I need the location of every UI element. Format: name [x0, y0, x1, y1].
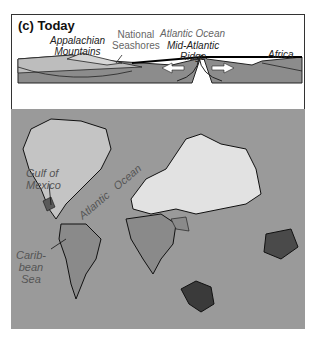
- label-mid-atlantic-ridge: Mid-Atlantic Ridge: [167, 40, 219, 62]
- label-appalachian-mountains: Appalachian Mountains: [50, 35, 105, 57]
- antarctica: [181, 281, 214, 312]
- label-gulf-of-mexico: Gulf of Mexico: [26, 167, 61, 191]
- africa: [126, 214, 176, 274]
- cross-section-panel: (c) Today Appalachian Mountains National…: [11, 14, 305, 110]
- label-caribbean-sea: Carib- bean Sea: [16, 249, 46, 285]
- label-national-seashores: National Seashores: [112, 29, 160, 51]
- world-map: Gulf of Mexico Atlantic Ocean Carib- bea…: [11, 109, 305, 329]
- world-map-shapes: [11, 109, 305, 329]
- australia: [264, 229, 298, 259]
- south-america: [59, 224, 101, 299]
- label-atlantic-ocean: Atlantic Ocean: [160, 28, 225, 39]
- label-africa: Africa: [268, 49, 294, 60]
- eurasia: [131, 134, 261, 214]
